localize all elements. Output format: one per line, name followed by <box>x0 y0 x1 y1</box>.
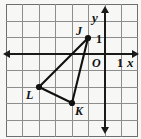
x-axis-label: x <box>127 56 134 69</box>
vertex-label-j: J <box>76 25 82 37</box>
vertex-label-k: K <box>75 105 83 117</box>
coordinate-plane-figure: J K L y x 1 1 O <box>0 0 141 139</box>
vertex-point-l <box>36 84 42 90</box>
vertex-point-j <box>85 35 91 41</box>
x-axis-unit-label: 1 <box>117 57 123 69</box>
origin-label: O <box>92 57 101 69</box>
y-axis-unit-label: 1 <box>96 33 102 45</box>
y-axis-label: y <box>92 11 98 24</box>
vertex-label-l: L <box>26 89 33 101</box>
